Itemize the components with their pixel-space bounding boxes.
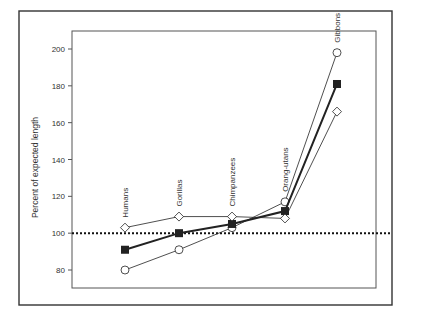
y-tick-label: 140 [52, 156, 66, 165]
square-marker [175, 229, 183, 237]
category-label: Humans [121, 188, 130, 218]
square-marker [121, 246, 129, 254]
y-tick-label: 200 [52, 45, 66, 54]
line-chart: 80100120140160180200HumansGorillasChimpa… [0, 0, 430, 327]
circle-marker [121, 266, 129, 274]
category-label: Gibbons [333, 13, 342, 43]
y-tick-label: 80 [56, 266, 65, 275]
diamond-marker [121, 223, 130, 232]
y-tick-label: 180 [52, 82, 66, 91]
square-marker [333, 80, 341, 88]
category-label: Chimpanzees [228, 158, 237, 207]
y-tick-label: 120 [52, 192, 66, 201]
diamond-marker [175, 212, 184, 221]
plot-frame [72, 31, 376, 288]
circle-marker [333, 49, 341, 57]
diamond-marker [333, 107, 342, 116]
diamond-marker [228, 212, 237, 221]
circle-marker [175, 246, 183, 254]
category-label: Gorillas [175, 179, 184, 206]
chart-figure: 80100120140160180200HumansGorillasChimpa… [0, 0, 430, 327]
category-label: Orang-utans [281, 147, 290, 191]
y-tick-label: 100 [52, 229, 66, 238]
y-axis-label: Percent of expected length [30, 117, 40, 218]
y-tick-label: 160 [52, 119, 66, 128]
plot-area: 80100120140160180200HumansGorillasChimpa… [52, 13, 390, 288]
diamond-marker [281, 214, 290, 223]
